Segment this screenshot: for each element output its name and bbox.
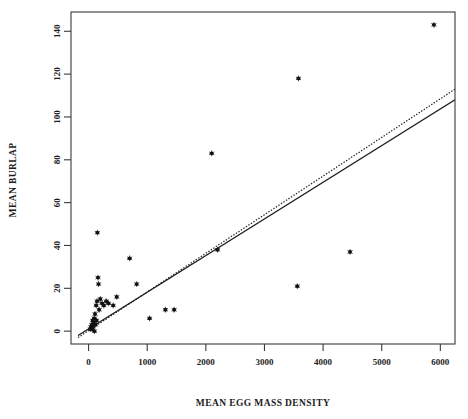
- data-point: [296, 76, 301, 82]
- y-tick-label: 40: [52, 240, 62, 250]
- y-tick-label: 20: [52, 283, 62, 293]
- x-tick-label: 5000: [373, 357, 392, 367]
- data-point: [111, 303, 116, 309]
- y-tick-label: 60: [52, 198, 62, 208]
- data-point: [94, 303, 99, 309]
- data-point: [147, 315, 152, 321]
- plot-frame: [71, 12, 455, 344]
- data-point: [97, 307, 102, 313]
- data-point: [92, 311, 97, 317]
- x-tick-label: 4000: [314, 357, 333, 367]
- x-tick-label: 6000: [431, 357, 450, 367]
- x-tick-label: 2000: [197, 357, 216, 367]
- data-point: [431, 22, 436, 28]
- x-tick-label: 3000: [255, 357, 274, 367]
- data-point: [134, 281, 139, 287]
- y-axis-title: MEAN BURLAP: [8, 143, 18, 218]
- data-point: [209, 150, 214, 156]
- data-point: [127, 255, 132, 261]
- chart-canvas: 0100020003000400050006000 02040608010012…: [0, 0, 468, 419]
- y-tick-label: 0: [52, 328, 62, 333]
- data-point: [172, 307, 177, 313]
- solid-regression-line: [78, 100, 455, 336]
- data-point: [295, 283, 300, 289]
- scatter-plot-figure: 0100020003000400050006000 02040608010012…: [0, 0, 468, 419]
- y-tick-label: 120: [52, 67, 62, 81]
- y-tick-label: 80: [52, 155, 62, 165]
- x-tick-label: 1000: [138, 357, 157, 367]
- data-point: [95, 275, 100, 281]
- regression-lines: [78, 89, 455, 337]
- x-axis-tick-labels: 0100020003000400050006000: [86, 357, 450, 367]
- x-axis-title: MEAN EGG MASS DENSITY: [196, 398, 330, 408]
- data-point: [95, 230, 100, 236]
- x-axis-ticks: [89, 344, 441, 351]
- y-axis-tick-labels: 020406080100120140: [52, 24, 62, 333]
- data-point: [347, 249, 352, 255]
- y-tick-label: 140: [52, 24, 62, 38]
- y-tick-label: 100: [52, 110, 62, 124]
- data-point: [96, 281, 101, 287]
- data-points-layer: [88, 22, 437, 334]
- data-point: [163, 307, 168, 313]
- y-axis-ticks: [64, 31, 71, 331]
- x-tick-label: 0: [86, 357, 91, 367]
- data-point: [114, 294, 119, 300]
